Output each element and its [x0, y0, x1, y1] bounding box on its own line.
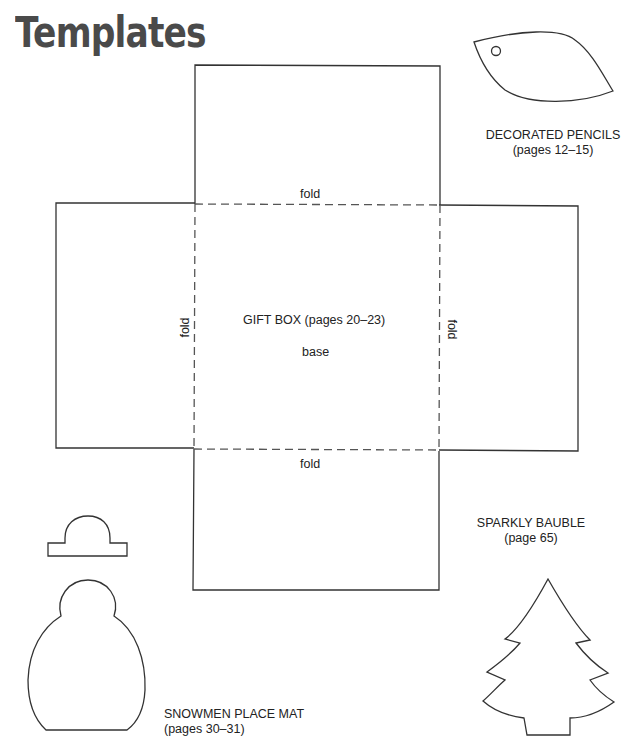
decorated-pencils-caption: DECORATED PENCILS (pages 12–15) — [478, 128, 628, 158]
templates-canvas — [0, 0, 639, 751]
gift-box-left-flap — [56, 203, 195, 448]
fold-label-bottom: fold — [300, 457, 320, 472]
gift-box-top-flap — [195, 65, 440, 205]
sparkly-bauble-name: SPARKLY BAUBLE — [466, 516, 596, 531]
sparkly-bauble-pages: (page 65) — [466, 531, 596, 546]
snowmen-place-mat-pages: (pages 30–31) — [164, 722, 304, 737]
decorated-pencils-pages: (pages 12–15) — [478, 143, 628, 158]
snowmen-place-mat-caption: SNOWMEN PLACE MAT (pages 30–31) — [164, 707, 304, 737]
decorated-pencils-name: DECORATED PENCILS — [478, 128, 628, 143]
snowman-hat-template — [48, 516, 127, 556]
fold-label-top: fold — [300, 187, 320, 202]
fold-label-left: fold — [178, 315, 193, 341]
fold-label-right: fold — [444, 317, 459, 343]
snowman-template — [28, 580, 145, 730]
snowmen-place-mat-name: SNOWMEN PLACE MAT — [164, 707, 304, 722]
leaf-hole — [492, 47, 501, 56]
sparkly-bauble-caption: SPARKLY BAUBLE (page 65) — [466, 516, 596, 546]
gift-box-label: GIFT BOX (pages 20–23) — [243, 313, 385, 328]
bauble-tree-template — [483, 579, 614, 735]
pencil-leaf-template — [474, 32, 613, 101]
gift-box-base-label: base — [302, 345, 329, 360]
gift-box-right-flap — [439, 205, 578, 451]
